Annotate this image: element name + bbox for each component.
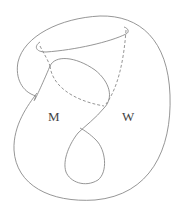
- hidden-rim-left: [40, 46, 50, 66]
- surface-diagram: M W: [0, 0, 179, 221]
- top-rim-curve: [36, 27, 128, 52]
- label-w: W: [122, 109, 135, 124]
- label-m: M: [48, 109, 60, 124]
- lower-loop-curve: [65, 128, 105, 184]
- hidden-inner-curve: [50, 66, 104, 106]
- left-descending-strand: [30, 66, 50, 110]
